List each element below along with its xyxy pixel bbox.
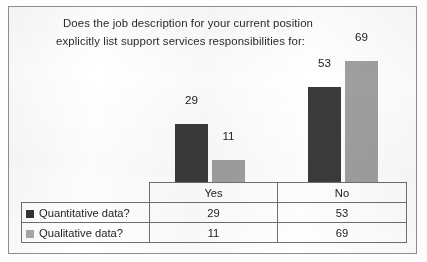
legend-item-quantitative[interactable]: Quantitative data? [22, 203, 150, 223]
table-row: Quantitative data? 29 53 [22, 203, 407, 223]
plot-area: 29 11 53 69 [21, 51, 404, 182]
bar-group-no: 53 69 [306, 51, 384, 182]
light-square-icon [26, 230, 34, 238]
cell-qualitative-no: 69 [278, 223, 407, 243]
table-row: Qualitative data? 11 69 [22, 223, 407, 243]
bar-value-label-yes-qualitative: 11 [206, 129, 251, 142]
legend-label-quantitative: Quantitative data? [39, 207, 130, 219]
legend-label-qualitative: Qualitative data? [39, 227, 123, 239]
figure-frame: Does the job description for your curren… [8, 6, 417, 254]
bar-no-quantitative[interactable] [308, 87, 341, 182]
dark-square-icon [26, 210, 34, 218]
table-corner-cell [22, 183, 150, 203]
bar-no-qualitative[interactable] [345, 61, 378, 182]
legend-item-qualitative[interactable]: Qualitative data? [22, 223, 150, 243]
chart-title-line-2: explicitly list support services respons… [56, 33, 386, 51]
bar-yes-qualitative[interactable] [212, 160, 245, 182]
bar-value-label-no-qualitative: 69 [339, 30, 384, 43]
table-header-no: No [278, 183, 407, 203]
chart-data-table: Yes No Quantitative data? 29 53 Qualitat… [21, 182, 407, 243]
cell-quantitative-yes: 29 [150, 203, 278, 223]
bar-value-label-yes-quantitative: 29 [169, 93, 214, 106]
chart-title: Does the job description for your curren… [56, 15, 386, 50]
cell-quantitative-no: 53 [278, 203, 407, 223]
bar-yes-quantitative[interactable] [175, 124, 208, 182]
bar-value-label-no-quantitative: 53 [302, 56, 347, 69]
chart-title-line-1: Does the job description for your curren… [56, 15, 386, 33]
bar-group-yes: 29 11 [173, 51, 251, 182]
table-header-yes: Yes [150, 183, 278, 203]
table-header-row: Yes No [22, 183, 407, 203]
cell-qualitative-yes: 11 [150, 223, 278, 243]
